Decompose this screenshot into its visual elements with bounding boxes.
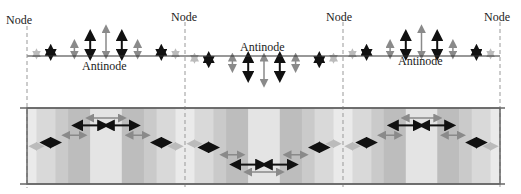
node-label-2: Node — [171, 11, 197, 23]
standing-wave-diagram — [0, 0, 521, 194]
node-label-3: Node — [326, 11, 352, 23]
antinode-label-3: Antinode — [398, 55, 443, 67]
antinode-label-2: Antinode — [240, 41, 285, 53]
antinode-label-1: Antinode — [82, 60, 127, 72]
node-label-4: Node — [484, 11, 510, 23]
node-label-1: Node — [6, 14, 32, 26]
